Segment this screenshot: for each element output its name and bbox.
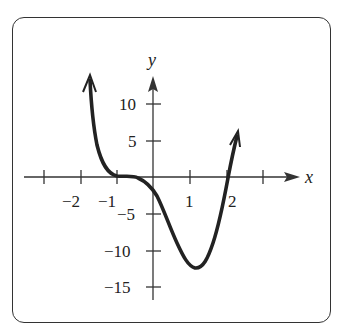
- x-tick-label: 1: [185, 192, 194, 211]
- x-tick-label: −2: [62, 192, 80, 211]
- y-tick-label: −5: [117, 205, 135, 224]
- x-tick-label: 2: [228, 192, 237, 211]
- function-curve: [90, 80, 237, 268]
- y-tick-label: 10: [119, 95, 136, 114]
- y-tick-label: −15: [104, 278, 131, 297]
- y-tick-label: 5: [128, 132, 137, 151]
- x-tick-label: −1: [98, 192, 116, 211]
- function-graph: x y −2 −1 1 2 10 5 −5 −10 −15: [0, 0, 341, 334]
- y-axis-label: y: [146, 50, 156, 70]
- y-tick-label: −10: [104, 242, 131, 261]
- x-axis-label: x: [304, 167, 313, 187]
- x-axis: [24, 170, 300, 184]
